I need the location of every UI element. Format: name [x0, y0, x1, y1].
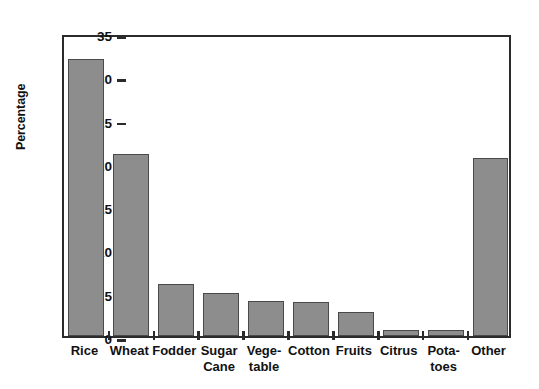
- bar-cotton: [293, 302, 329, 336]
- y-tick-mark: [117, 123, 126, 126]
- y-tick-label: 5: [104, 288, 112, 305]
- y-tick-mark: [117, 79, 126, 82]
- bar-vegetable: [248, 301, 284, 336]
- x-tick-mark: [422, 331, 425, 340]
- bar-chart-figure: Percentage 05101520253035 RiceWheatFodde…: [0, 0, 539, 389]
- y-tick-mark: [117, 339, 126, 342]
- y-tick-mark: [117, 36, 126, 39]
- bar-citrus: [383, 330, 419, 336]
- x-tick-mark: [197, 331, 200, 340]
- y-axis-title: Percentage: [14, 30, 32, 150]
- x-tick-mark: [332, 331, 335, 340]
- bar-fruits: [338, 312, 374, 336]
- bar-wheat: [113, 154, 149, 336]
- bar-other: [473, 158, 509, 336]
- y-tick-label: 35: [97, 28, 112, 45]
- x-label-other: Other: [460, 343, 517, 359]
- bar-potatoes: [428, 330, 464, 336]
- x-tick-mark: [153, 331, 156, 340]
- bar-fodder: [158, 284, 194, 336]
- bar-rice: [68, 59, 104, 336]
- x-tick-mark: [108, 331, 111, 340]
- plot-area: 05101520253035: [62, 35, 511, 338]
- bar-sugarcane: [203, 293, 239, 336]
- x-tick-mark: [242, 331, 245, 340]
- x-tick-mark: [377, 331, 380, 340]
- x-tick-mark: [467, 331, 470, 340]
- x-tick-mark: [287, 331, 290, 340]
